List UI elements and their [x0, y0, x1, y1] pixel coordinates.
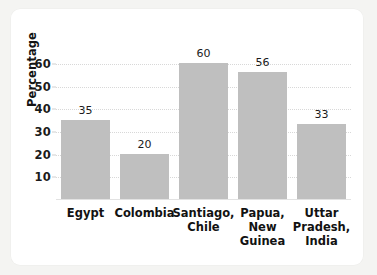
bar-value-label: 56	[256, 56, 270, 69]
bar[interactable]: 20Colombia	[120, 154, 169, 199]
x-axis-category-label: Colombia	[114, 206, 174, 220]
x-axis-category-label: Papua, New Guinea	[240, 206, 285, 248]
bar[interactable]: 60Santiago, Chile	[179, 63, 228, 199]
y-axis-tick-mark	[52, 86, 56, 87]
bar-value-label: 60	[197, 47, 211, 60]
y-axis-tick-label: 30	[35, 125, 51, 139]
x-axis-category-label: Santiago, Chile	[173, 206, 235, 234]
plot-area: 102030405060 35Egypt20Colombia60Santiago…	[56, 55, 351, 200]
y-axis-tick-label: 50	[35, 80, 51, 94]
x-axis-category-label: Uttar Pradesh, India	[293, 206, 350, 248]
y-axis-tick-label: 10	[35, 170, 51, 184]
y-axis-tick-label: 40	[35, 102, 51, 116]
bar[interactable]: 35Egypt	[61, 120, 110, 199]
y-axis-tick-mark	[52, 177, 56, 178]
y-axis-tick-mark	[52, 132, 56, 133]
bar-value-label: 20	[138, 138, 152, 151]
chart-card: Percentage 102030405060 35Egypt20Colombi…	[11, 9, 363, 265]
x-axis-baseline	[56, 199, 351, 200]
y-axis-tick-label: 60	[35, 57, 51, 71]
figure-root: Percentage 102030405060 35Egypt20Colombi…	[0, 0, 377, 275]
y-axis-tick-label: 20	[35, 148, 51, 162]
bar-value-label: 35	[79, 104, 93, 117]
y-axis-tick-mark	[52, 64, 56, 65]
bar[interactable]: 56Papua, New Guinea	[238, 72, 287, 199]
bar[interactable]: 33Uttar Pradesh, India	[297, 124, 346, 199]
y-axis-tick-mark	[52, 109, 56, 110]
bar-value-label: 33	[315, 108, 329, 121]
x-axis-category-label: Egypt	[67, 206, 104, 220]
y-axis-tick-mark	[52, 154, 56, 155]
